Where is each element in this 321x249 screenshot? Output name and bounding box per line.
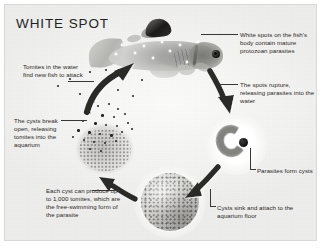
leader-line-cysts-break-open xyxy=(61,120,87,121)
leader-line-cysts-sink-vertical xyxy=(210,189,211,207)
label-cysts-break-open: The cysts break open, releasing tomites … xyxy=(14,117,72,149)
leader-line-cysts-sink-horizontal xyxy=(210,206,216,207)
label-tomites-find-fish: Tomites in the water find new fish to at… xyxy=(23,63,85,79)
label-parasites-form-cysts: Parasites form cysts xyxy=(257,167,317,175)
arrow-fish-to-cyst xyxy=(210,71,234,114)
arrow-tomites-to-fish xyxy=(87,63,134,112)
leader-line-tomites-find-fish xyxy=(68,81,94,82)
arrow-cyst-to-tomites xyxy=(185,167,218,198)
diagram-page: WHITE SPOT xyxy=(0,0,321,249)
leader-line-each-cyst xyxy=(92,190,120,191)
diagram-frame: WHITE SPOT xyxy=(4,4,317,241)
leader-line-parasites-horizontal xyxy=(250,169,256,170)
label-white-spots: White spots on the fish's body contain m… xyxy=(240,31,316,55)
label-each-cyst: Each cyst can produce up to 1,000 tomite… xyxy=(46,187,124,219)
leader-line-white-spots xyxy=(201,34,238,35)
label-cysts-sink: Cysts sink and attach to the aquarium fl… xyxy=(217,204,316,220)
leader-line-spots-rupture xyxy=(218,84,238,85)
label-spots-rupture: The spots rupture, releasing parasites i… xyxy=(240,81,316,105)
leader-line-parasites-vertical xyxy=(250,148,251,170)
